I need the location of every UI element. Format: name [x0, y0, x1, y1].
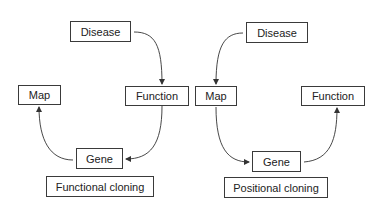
caption-positional-cloning: Positional cloning: [224, 177, 328, 198]
disease-node-right: Disease: [246, 22, 308, 43]
gene-label-right: Gene: [263, 156, 290, 168]
caption-label-left: Functional cloning: [56, 181, 145, 193]
disease-label-left: Disease: [81, 26, 121, 38]
map-label-left: Map: [29, 89, 50, 101]
edge-disease-to-function-left: [134, 32, 162, 84]
function-node-right: Function: [301, 86, 365, 106]
edge-function-to-gene-left: [126, 106, 162, 159]
caption-functional-cloning: Functional cloning: [46, 176, 154, 197]
map-node-right: Map: [195, 86, 237, 106]
function-node-left: Function: [125, 86, 189, 106]
function-label-left: Function: [136, 90, 178, 102]
edge-disease-to-map-right: [216, 33, 243, 84]
caption-label-right: Positional cloning: [233, 182, 319, 194]
edge-gene-to-map-left: [39, 107, 73, 160]
function-label-right: Function: [312, 90, 354, 102]
gene-node-right: Gene: [252, 151, 301, 172]
disease-label-right: Disease: [257, 27, 297, 39]
disease-node-left: Disease: [70, 21, 131, 42]
edge-gene-to-function-right: [304, 108, 337, 162]
map-node-left: Map: [18, 85, 61, 105]
gene-label-left: Gene: [86, 153, 113, 165]
gene-node-left: Gene: [76, 148, 123, 169]
map-label-right: Map: [205, 90, 226, 102]
edge-map-to-gene-right: [216, 107, 249, 162]
